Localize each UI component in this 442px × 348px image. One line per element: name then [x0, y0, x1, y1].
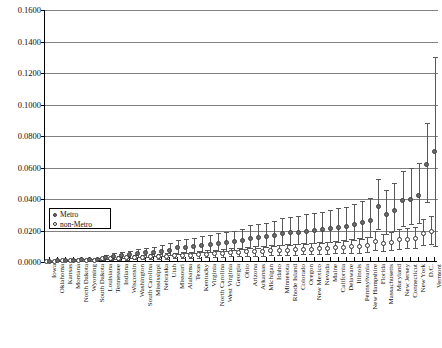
legend-label-metro: Metro: [60, 210, 78, 220]
data-point-metro: [304, 229, 309, 234]
y-tick-label: 0.0600: [18, 163, 41, 172]
x-tick-label: Oregon: [308, 264, 315, 285]
error-bar-cap: [296, 244, 301, 245]
error-bar-cap: [197, 258, 202, 259]
data-point-metro: [232, 239, 237, 244]
error-bar-cap: [240, 229, 245, 230]
error-bar-cap: [425, 202, 430, 203]
y-tick-label: 0.1000: [18, 100, 41, 109]
data-point-metro: [240, 238, 245, 243]
error-bar-cap: [368, 198, 373, 199]
error-bar-cap: [413, 227, 418, 228]
data-point-nonmetro: [381, 241, 386, 246]
legend-item-metro: Metro: [53, 210, 107, 220]
error-bar-cap: [296, 216, 301, 217]
open-circle-icon: [53, 222, 57, 226]
error-bar-cap: [373, 250, 378, 251]
error-bar-cap: [253, 256, 258, 257]
error-bar-cap: [264, 223, 269, 224]
error-bar-cap: [365, 252, 370, 253]
error-bar-cap: [357, 253, 362, 254]
data-point-nonmetro: [413, 236, 418, 241]
data-point-metro: [352, 222, 357, 227]
data-point-nonmetro: [285, 248, 290, 253]
error-bar-cap: [336, 242, 341, 243]
error-bar-cap: [320, 212, 325, 213]
error-bar-cap: [401, 171, 406, 172]
error-bar-cap: [352, 240, 357, 241]
x-tick-label: Florida: [380, 264, 387, 284]
error-bar-cap: [189, 258, 194, 259]
x-tick-label: New Jersey: [404, 264, 411, 296]
data-point-metro: [368, 218, 373, 223]
x-tick-label: New Mexico: [316, 264, 323, 300]
error-bar-cap: [309, 254, 314, 255]
x-tick-label: Connecticut: [412, 264, 419, 298]
data-point-metro: [248, 236, 253, 241]
data-point-nonmetro: [349, 244, 354, 249]
error-bar-cap: [413, 248, 418, 249]
error-bar-cap: [272, 246, 277, 247]
data-point-nonmetro: [220, 251, 225, 256]
data-point-metro: [208, 242, 213, 247]
data-point-metro: [336, 225, 341, 230]
data-point-nonmetro: [365, 243, 370, 248]
error-bar-cap: [245, 256, 250, 257]
error-bar-cap: [389, 250, 394, 251]
error-bar-cap: [304, 244, 309, 245]
error-bar-cap: [229, 256, 234, 257]
error-bar-cap: [384, 234, 389, 235]
data-point-nonmetro: [397, 237, 402, 242]
error-bar-cap: [256, 224, 261, 225]
data-point-metro: [424, 162, 429, 167]
data-point-nonmetro: [421, 231, 426, 236]
legend-item-nonmetro: non-Metro: [53, 220, 107, 230]
error-bar-cap: [160, 245, 165, 246]
error-bar-cap: [269, 255, 274, 256]
error-bar-cap: [417, 163, 422, 164]
error-bar-cap: [136, 249, 141, 250]
error-bar-cap: [224, 232, 229, 233]
error-bar-cap: [304, 214, 309, 215]
data-point-metro: [224, 240, 229, 245]
error-bar-cap: [152, 247, 157, 248]
error-bar-cap: [397, 229, 402, 230]
data-point-metro: [183, 245, 188, 250]
data-point-nonmetro: [228, 250, 233, 255]
error-bar-cap: [288, 245, 293, 246]
error-bar-cap: [280, 218, 285, 219]
data-point-metro: [408, 197, 413, 202]
x-tick-label: Colorado: [300, 264, 307, 290]
error-bar-cap: [280, 245, 285, 246]
data-point-metro: [256, 235, 261, 240]
error-bar-cap: [392, 183, 397, 184]
scatter-chart: 0.00000.02000.04000.06000.08000.10000.12…: [0, 0, 442, 348]
x-tick-label: New York: [420, 264, 427, 292]
error-bar-cap: [401, 226, 406, 227]
error-bar-cap: [301, 254, 306, 255]
data-point-nonmetro: [309, 247, 314, 252]
data-point-metro: [360, 220, 365, 225]
error-bar-cap: [312, 243, 317, 244]
data-point-nonmetro: [341, 245, 346, 250]
error-bar-cap: [405, 248, 410, 249]
y-tick-label: 0.0400: [18, 195, 41, 204]
data-point-nonmetro: [301, 247, 306, 252]
data-point-metro: [216, 241, 221, 246]
error-bar-cap: [344, 241, 349, 242]
data-point-nonmetro: [357, 244, 362, 249]
error-bar-cap: [409, 224, 414, 225]
error-bar-cap: [360, 239, 365, 240]
error-bar-cap: [205, 257, 210, 258]
error-bar-cap: [208, 235, 213, 236]
error-bar-cap: [192, 238, 197, 239]
error-bar-cap: [312, 213, 317, 214]
x-tick-label: Iowa: [51, 264, 58, 278]
data-point-metro: [280, 231, 285, 236]
error-bar-cap: [149, 259, 154, 260]
data-point-metro: [191, 244, 196, 249]
data-point-nonmetro: [333, 245, 338, 250]
error-bar-cap: [352, 204, 357, 205]
error-bar-cap: [349, 253, 354, 254]
x-tick-label: Montana: [75, 264, 82, 289]
